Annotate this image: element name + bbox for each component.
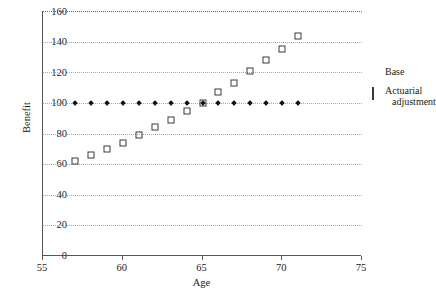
gridline-120: [43, 72, 362, 73]
data-point-actuarial-adjustment-58: [87, 151, 94, 158]
data-point-base-62: [152, 100, 158, 106]
legend-label-actuarial-line1: Actuarial: [385, 85, 422, 96]
data-point-actuarial-adjustment-70: [279, 46, 286, 53]
x-tick-label-70: 70: [266, 262, 296, 273]
data-point-actuarial-adjustment-65: [199, 99, 206, 106]
data-point-base-57: [72, 100, 78, 106]
data-point-actuarial-adjustment-57: [71, 158, 78, 165]
gridline-60: [43, 164, 362, 165]
gridline-80: [43, 134, 362, 135]
gridline-140: [43, 42, 362, 43]
gridline-20: [43, 225, 362, 226]
data-point-actuarial-adjustment-63: [167, 116, 174, 123]
data-point-actuarial-adjustment-69: [263, 57, 270, 64]
data-point-actuarial-adjustment-71: [295, 32, 302, 39]
data-point-actuarial-adjustment-61: [135, 132, 142, 139]
gridline-160: [43, 11, 362, 12]
x-tick-65: [202, 256, 203, 260]
data-point-actuarial-adjustment-59: [103, 145, 110, 152]
x-tick-75: [361, 256, 362, 260]
data-point-actuarial-adjustment-68: [247, 67, 254, 74]
open-square-icon: [372, 89, 374, 100]
data-point-base-63: [168, 100, 174, 106]
gridline-40: [43, 195, 362, 196]
legend-item-actuarial-adjustment: Actuarialadjustment: [372, 85, 436, 107]
legend-label-base: Base: [385, 66, 436, 77]
data-point-base-67: [232, 100, 238, 106]
legend-item-base: Base: [372, 66, 436, 77]
data-point-base-66: [216, 100, 222, 106]
x-tick-label-65: 65: [187, 262, 217, 273]
y-axis-label: Benefit: [21, 88, 32, 148]
x-tick-label-75: 75: [346, 262, 376, 273]
data-point-actuarial-adjustment-62: [151, 124, 158, 131]
data-point-base-69: [263, 100, 269, 106]
x-tick-60: [122, 256, 123, 260]
plot-area: [42, 11, 361, 256]
x-tick-label-60: 60: [107, 262, 137, 273]
chart-legend: Base Actuarialadjustment: [372, 66, 436, 115]
data-point-actuarial-adjustment-64: [183, 107, 190, 114]
x-axis-label: Age: [0, 277, 403, 288]
x-tick-label-55: 55: [27, 262, 57, 273]
data-point-base-61: [136, 100, 142, 106]
data-point-base-59: [104, 100, 110, 106]
data-point-base-70: [279, 100, 285, 106]
data-point-actuarial-adjustment-67: [231, 79, 238, 86]
data-point-actuarial-adjustment-60: [119, 139, 126, 146]
legend-label-actuarial-line2: adjustment: [385, 96, 436, 107]
data-point-base-58: [88, 100, 94, 106]
data-point-base-68: [248, 100, 254, 106]
x-tick-55: [42, 256, 43, 260]
data-point-base-64: [184, 100, 190, 106]
data-point-actuarial-adjustment-66: [215, 89, 222, 96]
data-point-base-71: [295, 100, 301, 106]
x-tick-70: [281, 256, 282, 260]
legend-label-actuarial: Actuarialadjustment: [385, 85, 436, 107]
data-point-base-60: [120, 100, 126, 106]
